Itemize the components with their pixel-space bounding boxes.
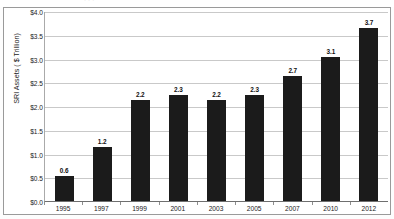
- y-axis-tick-label: $3.0: [21, 56, 43, 63]
- bar-group[interactable]: 2.7: [274, 12, 312, 201]
- bar-group[interactable]: 2.3: [236, 12, 274, 201]
- bar-group[interactable]: 1.2: [83, 12, 121, 201]
- y-axis-tick-label: $1.5: [21, 127, 43, 134]
- bar[interactable]: [55, 176, 74, 202]
- bar[interactable]: [131, 100, 150, 202]
- x-axis-tick-label: 2001: [159, 205, 197, 217]
- bar-value-label: 3.1: [312, 48, 350, 55]
- bar[interactable]: [283, 76, 302, 201]
- y-axis-tick-label: $3.5: [21, 32, 43, 39]
- x-axis-tick-label: 1999: [120, 205, 158, 217]
- y-axis-tick-label: $1.0: [21, 151, 43, 158]
- bar[interactable]: [207, 100, 226, 202]
- bar-group[interactable]: 3.1: [312, 12, 350, 201]
- bar-group[interactable]: 2.2: [197, 12, 235, 201]
- y-axis-tick-labels: $0.0$0.5$1.0$1.5$2.0$2.5$3.0$3.5$4.0: [21, 12, 43, 202]
- bar-value-label: 2.3: [159, 86, 197, 93]
- y-axis-tick-label: $2.5: [21, 80, 43, 87]
- bar[interactable]: [359, 28, 378, 201]
- bar-value-label: 2.7: [274, 67, 312, 74]
- x-axis-tick-labels: 199519971999200120032005200720102012: [44, 205, 388, 217]
- bar-value-label: 2.2: [197, 91, 235, 98]
- x-axis-tick-label: 2007: [273, 205, 311, 217]
- ghost-title-text: · · ·: [84, 0, 94, 3]
- x-axis-tick-label: 2012: [350, 205, 388, 217]
- bar-value-label: 1.2: [83, 138, 121, 145]
- y-axis-title: SRI Assets ( $ Trillion): [12, 9, 21, 129]
- bar[interactable]: [245, 95, 264, 201]
- x-axis-tick-label: 1995: [44, 205, 82, 217]
- y-axis-tick-label: $2.0: [21, 104, 43, 111]
- bar[interactable]: [169, 95, 188, 201]
- sri-assets-bar-chart: · · · SRI Assets ( $ Trillion) $0.0$0.5$…: [0, 0, 394, 219]
- y-axis-tick-label: $4.0: [21, 9, 43, 16]
- scan-artifact-strip: · · ·: [0, 0, 394, 7]
- plot-area: 0.61.22.22.32.22.32.73.13.7: [44, 12, 388, 202]
- bar-group[interactable]: 3.7: [350, 12, 388, 201]
- chart-frame: SRI Assets ( $ Trillion) $0.0$0.5$1.0$1.…: [3, 7, 391, 215]
- x-axis-tick-label: 2003: [197, 205, 235, 217]
- bar-group[interactable]: 0.6: [45, 12, 83, 201]
- bar[interactable]: [93, 147, 112, 201]
- bar-value-label: 2.2: [121, 91, 159, 98]
- bar-value-label: 3.7: [350, 19, 388, 26]
- bar-value-label: 2.3: [236, 86, 274, 93]
- x-axis-tick-label: 2005: [235, 205, 273, 217]
- bar-group[interactable]: 2.2: [121, 12, 159, 201]
- x-axis-tick-label: 1997: [82, 205, 120, 217]
- bar-group[interactable]: 2.3: [159, 12, 197, 201]
- bar[interactable]: [321, 57, 340, 201]
- bar-value-label: 0.6: [45, 167, 83, 174]
- bars-container: 0.61.22.22.32.22.32.73.13.7: [45, 12, 388, 201]
- y-axis-tick-label: $0.5: [21, 175, 43, 182]
- x-axis-tick-label: 2010: [312, 205, 350, 217]
- y-axis-tick-label: $0.0: [21, 199, 43, 206]
